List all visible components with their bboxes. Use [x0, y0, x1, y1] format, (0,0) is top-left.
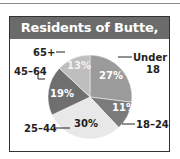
callout-25-44: 25–44 — [24, 123, 57, 134]
slice-label-25-44: 30% — [74, 118, 98, 129]
callout-under-18: Under — [133, 52, 167, 63]
callout-18-24: 18–24 — [136, 119, 169, 130]
slice-label-65-plus: 13% — [67, 60, 91, 71]
slice-label-45-64: 19% — [50, 88, 74, 99]
slice-label-under-18: 27% — [99, 70, 123, 81]
callout-45-64: 45–64 — [14, 66, 47, 77]
pie-chart — [0, 0, 180, 159]
callout-under-18-line2: 18 — [146, 64, 160, 75]
slice-label-18-24: 11% — [112, 102, 136, 113]
callout-65-plus: 65+ — [33, 47, 55, 58]
